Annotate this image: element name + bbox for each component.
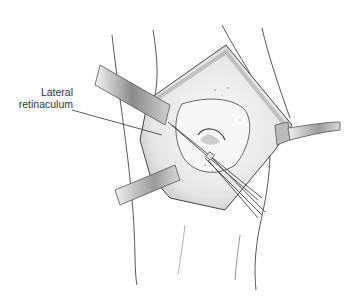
- label-lateral-retinaculum: Lateral retinaculum: [18, 86, 73, 110]
- retractor-right: [275, 122, 290, 145]
- surgical-illustration: [0, 0, 353, 297]
- label-line-1: Lateral: [18, 86, 73, 98]
- label-line-2: retinaculum: [18, 98, 73, 110]
